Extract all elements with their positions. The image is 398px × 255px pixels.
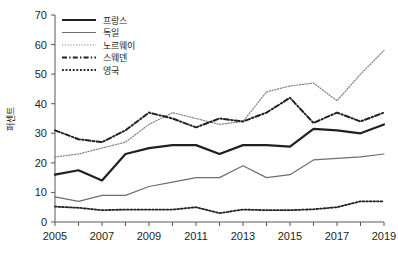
- series-line-5: [55, 201, 384, 213]
- x-tick-label: 2007: [90, 230, 114, 242]
- legend-label-5: 영국: [103, 66, 119, 76]
- x-tick-label: 2011: [184, 230, 208, 242]
- y-tick-label: 0: [41, 216, 47, 228]
- legend-label-3: 노르웨이: [103, 40, 135, 51]
- y-tick-label: 30: [35, 127, 47, 139]
- series-line-4: [55, 98, 384, 142]
- line-chart: 0102030405060702005200720092011201320152…: [0, 0, 398, 255]
- legend-label-2: 독일: [103, 28, 119, 38]
- y-tick-label: 70: [35, 9, 47, 21]
- y-tick-label: 40: [35, 98, 47, 110]
- legend-label-1: 프랑스: [103, 15, 127, 26]
- x-tick-label: 2013: [231, 230, 255, 242]
- y-axis-title: 퍼센트: [6, 107, 16, 131]
- x-tick-label: 2009: [137, 230, 161, 242]
- x-tick-label: 2019: [372, 230, 396, 242]
- y-tick-label: 20: [35, 157, 47, 169]
- y-tick-label: 60: [35, 39, 47, 51]
- x-tick-label: 2005: [43, 230, 67, 242]
- y-tick-label: 50: [35, 68, 47, 80]
- y-tick-label: 10: [35, 186, 47, 198]
- series-line-1: [55, 124, 384, 180]
- x-tick-label: 2017: [325, 230, 349, 242]
- chart-canvas: 0102030405060702005200720092011201320152…: [0, 0, 398, 255]
- x-tick-label: 2015: [278, 230, 302, 242]
- legend-label-4: 스웨덴: [103, 52, 127, 63]
